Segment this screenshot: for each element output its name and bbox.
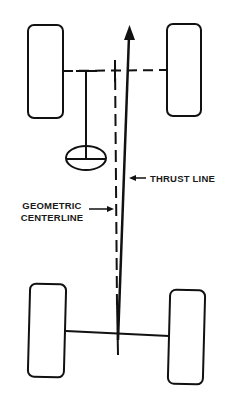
front-right-wheel — [167, 24, 201, 116]
geometric-centerline-label-line1: GEOMETRIC — [16, 200, 88, 212]
thrust-line-label: THRUST LINE — [150, 173, 215, 185]
thrust-line-pointer-arrow-icon — [129, 175, 146, 181]
geometric-centerline — [115, 60, 117, 305]
front-left-wheel — [28, 25, 63, 118]
centerline-pointer-arrow-icon — [89, 206, 114, 212]
rear-left-wheel — [28, 284, 66, 378]
rear-right-wheel — [168, 290, 205, 385]
steering-wheel-icon — [66, 146, 106, 170]
geometric-centerline-label-line2: CENTERLINE — [16, 212, 88, 224]
geometric-centerline-label: GEOMETRIC CENTERLINE — [16, 200, 88, 224]
thrust-line-arrowhead-icon — [124, 25, 135, 40]
thrust-line — [118, 36, 129, 340]
